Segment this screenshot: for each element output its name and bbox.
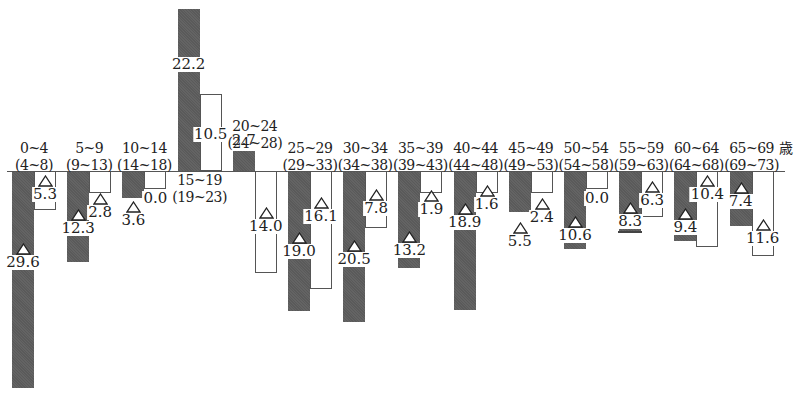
age-range: 35~39: [393, 140, 448, 157]
category-label-11: 55~59(59~63): [614, 140, 669, 174]
value-label-white-3: 10.5: [193, 127, 228, 142]
bar-dark-2: [122, 172, 144, 198]
value-label-dark-6: 20.5: [336, 252, 371, 267]
age-range-later: (34~38): [338, 157, 393, 174]
bar-dark-8: [454, 172, 476, 310]
category-label-5: 25~29(29~33): [283, 140, 338, 174]
unit-label: 歳: [779, 140, 793, 157]
value-label-dark-0: 29.6: [5, 255, 40, 270]
category-label-10: 50~54(54~58): [559, 140, 614, 174]
age-range: 50~54: [559, 140, 614, 157]
age-range: 5~9: [66, 140, 112, 157]
category-label-0: 0~4(4~8): [15, 140, 53, 174]
category-label-12: 60~64(64~68): [669, 140, 724, 174]
underline-mark: [618, 231, 642, 233]
age-range-later: (49~53): [503, 157, 558, 174]
value-label-white-7: 1.9: [418, 202, 444, 217]
bar-dark-4: [233, 151, 255, 171]
age-range-later: (19~23): [172, 189, 227, 206]
value-label-white-6: 7.8: [363, 201, 389, 216]
age-range-later: (69~73): [724, 157, 779, 174]
value-label-dark-1: 12.3: [60, 221, 95, 236]
category-label-13: 65~69(69~73)歳: [724, 140, 779, 174]
age-range: 45~49: [503, 140, 558, 157]
age-range-later: (14~18): [117, 157, 172, 174]
category-label-3: 15~19(19~23): [172, 172, 227, 206]
age-range: 40~44: [448, 140, 503, 157]
age-range-later: (59~63): [614, 157, 669, 174]
bar-dark-0: [12, 172, 34, 388]
age-range: 30~34: [338, 140, 393, 157]
value-label-white-10: 0.0: [584, 191, 610, 206]
bar-dark-3: [178, 9, 200, 171]
value-label-white-1: 2.8: [87, 205, 113, 220]
age-range-later: (44~48): [448, 157, 503, 174]
value-label-dark-7: 13.2: [392, 243, 427, 258]
value-label-white-5: 16.1: [303, 209, 338, 224]
age-range-later: (9~13): [66, 157, 112, 174]
value-label-white-11: 6.3: [639, 193, 665, 208]
age-range: 60~64: [669, 140, 724, 157]
age-range: 65~69: [724, 140, 779, 157]
age-range: 0~4: [15, 140, 53, 157]
category-label-2: 10~14(14~18): [117, 140, 172, 174]
category-label-7: 35~39(39~43): [393, 140, 448, 174]
category-label-1: 5~9(9~13): [66, 140, 112, 174]
value-label-dark-9: 5.5: [507, 234, 533, 249]
age-range: 55~59: [614, 140, 669, 157]
category-label-9: 45~49(49~53): [503, 140, 558, 174]
value-label-dark-5: 19.0: [281, 244, 316, 259]
value-label-white-0: 5.3: [32, 187, 58, 202]
value-label-dark-12: 9.4: [672, 220, 698, 235]
age-range: 10~14: [117, 140, 172, 157]
bar-white-9: [531, 171, 553, 193]
value-label-dark-2: 3.6: [120, 213, 146, 228]
category-label-6: 30~34(34~38): [338, 140, 393, 174]
age-range: 25~29: [283, 140, 338, 157]
value-label-dark-3: 22.2: [171, 57, 206, 72]
age-range-later: (54~58): [559, 157, 614, 174]
bar-white-1: [89, 171, 111, 193]
value-label-dark-11: 8.3: [617, 214, 643, 229]
age-range: 15~19: [172, 172, 227, 189]
bar-white-5: [310, 171, 332, 289]
age-range-later: (29~33): [283, 157, 338, 174]
bar-dark-9: [509, 172, 531, 212]
value-label-white-4: 14.0: [248, 219, 283, 234]
value-label-white-8: 1.6: [474, 197, 500, 212]
value-label-white-12: 10.4: [690, 187, 725, 202]
value-label-dark-4: 2.7: [231, 133, 257, 148]
age-range-later: (64~68): [669, 157, 724, 174]
value-label-dark-8: 18.9: [447, 215, 482, 230]
value-label-white-2: 0.0: [142, 191, 168, 206]
value-label-dark-13: 7.4: [728, 194, 754, 209]
value-label-white-9: 2.4: [529, 210, 555, 225]
age-range-later: (4~8): [15, 157, 53, 174]
age-range-later: (39~43): [393, 157, 448, 174]
population-change-bar-chart: 0~4(4~8)29.65.35~9(9~13)12.32.810~14(14~…: [0, 0, 797, 400]
category-label-8: 40~44(44~48): [448, 140, 503, 174]
value-label-white-13: 11.6: [745, 231, 780, 246]
value-label-dark-10: 10.6: [557, 228, 592, 243]
